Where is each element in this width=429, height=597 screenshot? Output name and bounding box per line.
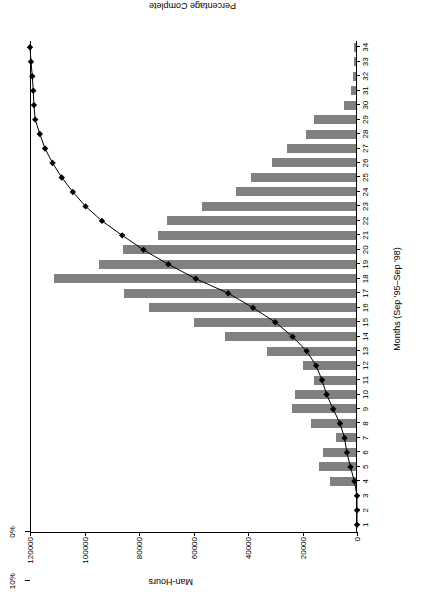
man-hours-tick-label: 80000 (135, 532, 144, 597)
curve-point (37, 131, 43, 137)
month-tick-mark (356, 278, 360, 279)
secondary-y-axis-title: Percentage Complete (149, 1, 236, 11)
month-tick-mark (356, 509, 360, 510)
month-tick-mark (356, 234, 360, 235)
month-tick-mark (356, 119, 360, 120)
month-tick-label: 12 (356, 361, 370, 370)
y-axis-title: Man-Hours (148, 577, 193, 587)
month-tick-label: 31 (356, 86, 370, 95)
month-tick-mark (356, 394, 360, 395)
month-tick-label: 20 (356, 245, 370, 254)
month-tick-label: 10 (356, 390, 370, 399)
man-hours-tick-mark (139, 532, 140, 536)
month-tick-label: 23 (356, 202, 370, 211)
month-tick-label: 16 (356, 303, 370, 312)
man-hours-tick-label: 60000 (189, 532, 198, 597)
month-tick-mark (356, 205, 360, 206)
percentage-tick-mark (25, 531, 30, 532)
month-tick-mark (356, 148, 360, 149)
month-tick-label: 15 (356, 318, 370, 327)
percentage-tick-label: 10% (8, 561, 17, 597)
month-tick-mark (356, 46, 360, 47)
man-hours-tick-label: 20000 (298, 532, 307, 597)
month-tick-mark (356, 451, 360, 452)
man-hours-tick-label: 0 (353, 532, 362, 597)
month-tick-label: 11 (356, 376, 370, 384)
month-tick-mark (356, 379, 360, 380)
curve-point (32, 116, 38, 122)
curve-point (165, 261, 171, 267)
month-tick-label: 21 (356, 231, 370, 240)
plot-wrapper: 020000400006000080000100000120000 0%10%2… (0, 0, 429, 597)
month-tick-mark (356, 263, 360, 264)
month-tick-label: 26 (356, 159, 370, 168)
man-hours-tick-mark (30, 532, 31, 536)
month-tick-mark (356, 350, 360, 351)
month-tick-label: 25 (356, 173, 370, 182)
month-tick-label: 29 (356, 115, 370, 124)
cumulative-curve (30, 40, 357, 532)
curve-point (225, 290, 231, 296)
curve-point (313, 362, 319, 368)
man-hours-tick-mark (194, 532, 195, 536)
month-tick-label: 30 (356, 101, 370, 110)
curve-point (347, 464, 353, 470)
curve-point (337, 420, 343, 426)
month-tick-mark (356, 176, 360, 177)
curve-point (27, 44, 33, 50)
month-tick-label: 22 (356, 216, 370, 225)
month-tick-mark (356, 75, 360, 76)
month-tick-mark (356, 90, 360, 91)
month-tick-mark (356, 292, 360, 293)
month-tick-label: 27 (356, 144, 370, 153)
month-tick-mark (356, 61, 360, 62)
month-tick-mark (356, 480, 360, 481)
curve-point (341, 435, 347, 441)
month-tick-label: 17 (356, 289, 370, 298)
month-tick-mark (356, 466, 360, 467)
month-tick-label: 13 (356, 347, 370, 356)
month-tick-mark (356, 307, 360, 308)
month-tick-mark (356, 191, 360, 192)
percentage-tick-mark (25, 580, 30, 581)
curve-point (29, 73, 35, 79)
curve-point (42, 145, 48, 151)
month-tick-mark (356, 249, 360, 250)
x-axis-title: Months (Sep '95–Sep '98) (392, 247, 402, 351)
month-tick-mark (356, 365, 360, 366)
man-hours-tick-mark (248, 532, 249, 536)
curve-point (330, 406, 336, 412)
month-tick-label: 28 (356, 130, 370, 139)
month-tick-label: 33 (356, 57, 370, 66)
curve-point (49, 160, 55, 166)
month-tick-mark (356, 437, 360, 438)
month-tick-mark (356, 422, 360, 423)
curve-point (250, 305, 256, 311)
curve-point (193, 276, 199, 282)
month-tick-label: 34 (356, 43, 370, 52)
man-hours-tick-label: 120000 (26, 532, 35, 597)
man-hours-tick-mark (303, 532, 304, 536)
month-tick-mark (356, 104, 360, 105)
curve-point (140, 247, 146, 253)
curve-point (344, 449, 350, 455)
rotated-figure: 020000400006000080000100000120000 0%10%2… (0, 0, 429, 597)
man-hours-tick-mark (357, 532, 358, 536)
man-hours-tick-label: 40000 (244, 532, 253, 597)
month-tick-label: 24 (356, 188, 370, 197)
plot-area: 020000400006000080000100000120000 0%10%2… (30, 41, 357, 533)
month-tick-mark (356, 220, 360, 221)
curve-point (319, 377, 325, 383)
month-tick-mark (356, 162, 360, 163)
month-tick-label: 32 (356, 72, 370, 81)
curve-point (28, 59, 34, 65)
percentage-tick-label: 0% (8, 512, 17, 552)
month-tick-mark (356, 321, 360, 322)
month-tick-mark (356, 133, 360, 134)
curve-point (119, 232, 125, 238)
month-tick-mark (356, 336, 360, 337)
curve-point (30, 87, 36, 93)
man-hours-tick-label: 100000 (80, 532, 89, 597)
curve-point (31, 102, 37, 108)
month-tick-mark (356, 524, 360, 525)
